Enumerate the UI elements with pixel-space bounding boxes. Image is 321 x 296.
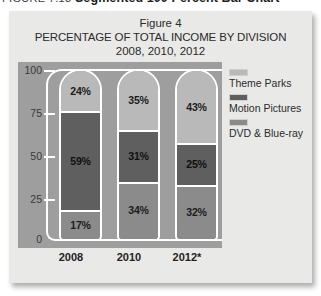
chart-legend: Theme Parks Motion Pictures DVD & Blue-r… — [229, 69, 311, 144]
segment-divider — [175, 143, 218, 145]
legend-item-dvd-blueray[interactable]: DVD & Blue-ray — [229, 119, 311, 140]
bar-2008-segment-motion-pictures[interactable]: 59% — [61, 111, 100, 210]
bar-2012-segment-theme-parks[interactable]: 43% — [177, 71, 216, 143]
legend-item-theme-parks[interactable]: Theme Parks — [229, 69, 311, 90]
bar-2012[interactable]: 43% 25% 32% — [175, 69, 218, 241]
plot-area: 100 75 50 25 0 24% 59% 17% 35% — [18, 62, 222, 248]
segment-divider — [59, 111, 102, 113]
chart-subtitle: 2008, 2010, 2012 — [9, 44, 312, 58]
figure-caption-title: Segmented 100 Percent Bar Chart — [75, 0, 280, 5]
bar-2012-segment-dvd-blueray[interactable]: 32% — [177, 185, 216, 239]
y-tick-mark-50 — [44, 156, 55, 158]
bar-2010-segment-dvd-blueray[interactable]: 34% — [119, 182, 158, 239]
bar-2008[interactable]: 24% 59% 17% — [59, 69, 102, 241]
segment-divider — [117, 182, 160, 184]
bar-2012-segment-motion-pictures[interactable]: 25% — [177, 143, 216, 185]
figure-caption-strip: FIGURE 7.13 Segmented 100 Percent Bar Ch… — [0, 0, 321, 9]
figure-caption-lead: FIGURE 7.13 — [2, 0, 71, 4]
bar-2008-label-dvd-blueray: 17% — [70, 219, 90, 231]
legend-swatch-dvd-blueray — [229, 119, 248, 126]
bar-2010[interactable]: 35% 31% 34% — [117, 69, 160, 241]
y-tick-label-75: 75 — [18, 108, 42, 118]
bar-2008-label-theme-parks: 24% — [70, 85, 90, 97]
legend-label-theme-parks: Theme Parks — [229, 77, 311, 90]
bar-2010-label-motion-pictures: 31% — [128, 150, 148, 162]
y-tick-mark-100 — [44, 70, 55, 72]
chart-title-block: Figure 4 PERCENTAGE OF TOTAL INCOME BY D… — [9, 16, 312, 58]
y-tick-mark-75 — [44, 113, 55, 115]
x-axis-label-2012: 2012* — [157, 251, 217, 263]
legend-swatch-theme-parks — [229, 69, 248, 76]
figure-number: Figure 4 — [9, 16, 312, 30]
bar-2010-segment-theme-parks[interactable]: 35% — [119, 71, 158, 130]
bar-2010-label-theme-parks: 35% — [128, 94, 148, 106]
segment-divider — [175, 185, 218, 187]
segment-divider — [59, 210, 102, 212]
bar-2008-segment-theme-parks[interactable]: 24% — [61, 71, 100, 111]
legend-swatch-motion-pictures — [229, 94, 248, 101]
bar-2012-label-dvd-blueray: 32% — [186, 206, 206, 218]
x-axis-label-2008: 2008 — [41, 251, 101, 263]
legend-label-dvd-blueray: DVD & Blue-ray — [229, 127, 311, 140]
figure-caption-text: FIGURE 7.13 Segmented 100 Percent Bar Ch… — [2, 0, 279, 5]
x-axis-label-2010: 2010 — [99, 251, 159, 263]
legend-item-motion-pictures[interactable]: Motion Pictures — [229, 94, 311, 115]
y-tick-label-25: 25 — [18, 194, 42, 204]
y-axis-labels: 100 75 50 25 0 — [17, 62, 42, 248]
chart-title: PERCENTAGE OF TOTAL INCOME BY DIVISION — [9, 30, 312, 44]
bar-2012-label-theme-parks: 43% — [186, 101, 206, 113]
figure-card: Figure 4 PERCENTAGE OF TOTAL INCOME BY D… — [9, 11, 312, 283]
legend-label-motion-pictures: Motion Pictures — [229, 102, 311, 115]
bar-2008-label-motion-pictures: 59% — [70, 155, 90, 167]
y-tick-label-100: 100 — [18, 65, 42, 75]
bar-2010-label-dvd-blueray: 34% — [128, 204, 148, 216]
bar-2012-label-motion-pictures: 25% — [186, 158, 206, 170]
bar-2010-segment-motion-pictures[interactable]: 31% — [119, 130, 158, 182]
bar-2008-segment-dvd-blueray[interactable]: 17% — [61, 210, 100, 239]
y-tick-label-0: 0 — [18, 234, 42, 244]
y-tick-label-50: 50 — [18, 151, 42, 161]
segment-divider — [117, 130, 160, 132]
y-tick-mark-25 — [44, 199, 55, 201]
